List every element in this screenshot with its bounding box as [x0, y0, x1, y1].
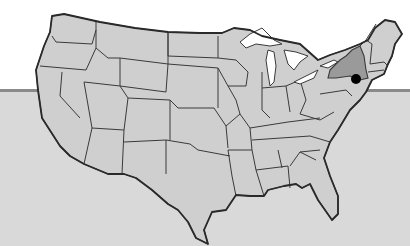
location-marker-icon — [351, 74, 361, 84]
us-map — [0, 0, 410, 246]
map-stage — [0, 0, 410, 246]
